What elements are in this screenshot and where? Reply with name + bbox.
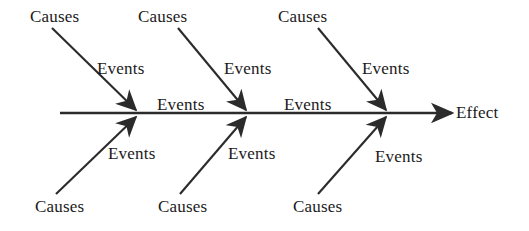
top-cause-label-2: Causes [138,8,187,25]
top-event-label-2: Events [224,60,271,77]
bottom-event-label-1: Events [108,145,155,162]
bottom-cause-label-3: Causes [293,198,342,215]
spine-event-label-1: Events [157,96,204,113]
bottom-event-label-3: Events [375,148,422,165]
top-event-label-3: Events [362,60,409,77]
bottom-cause-label-2: Causes [158,198,207,215]
top-event-label-1: Events [97,60,144,77]
bottom-cause-label-1: Causes [35,198,84,215]
top-cause-label-1: Causes [30,8,79,25]
top-cause-label-3: Causes [278,8,327,25]
spine-event-label-2: Events [284,96,331,113]
bottom-event-label-2: Events [228,145,275,162]
effect-label: Effect [456,104,498,121]
fishbone-diagram: Causes Causes Causes Events Events Event… [0,0,529,231]
